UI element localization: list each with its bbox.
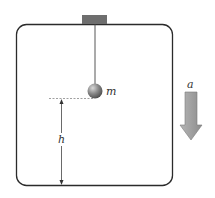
- pendulum-diagram: m h a: [0, 0, 215, 198]
- height-arrowhead-down: [60, 180, 64, 185]
- height-arrowhead-up: [60, 99, 64, 104]
- acceleration-label: a: [187, 78, 194, 91]
- pendulum-ball: [88, 84, 103, 99]
- acceleration-arrow: [180, 92, 202, 140]
- ceiling-mount: [82, 15, 107, 24]
- box: [17, 25, 173, 186]
- mass-label: m: [106, 85, 116, 98]
- height-label: h: [58, 133, 65, 146]
